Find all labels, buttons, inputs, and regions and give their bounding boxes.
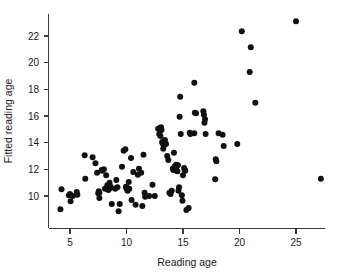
axes [49,14,326,229]
x-tick-label: 15 [177,237,189,248]
data-point [179,192,185,198]
data-point [293,18,299,24]
data-point [92,160,98,166]
data-point [178,131,184,137]
data-point [234,141,240,147]
data-point [252,100,258,106]
data-point [82,152,88,158]
data-point [96,190,102,196]
data-point [220,132,226,138]
data-point [116,208,122,214]
x-tick-label: 25 [290,237,302,248]
data-point [212,176,218,182]
y-axis-title: Fitted reading age [2,79,14,164]
x-axis-ticks: 510152025 [67,229,302,248]
data-point [191,80,197,86]
data-point [74,192,80,198]
y-axis-ticks: 10121416182022 [28,31,49,202]
y-tick-label: 16 [28,111,40,122]
scatter-plot-figure: 510152025 10121416182022 Reading age Fit… [0,0,341,275]
data-point [191,130,197,136]
data-point [101,166,107,172]
y-tick-label: 22 [28,31,40,42]
y-tick-label: 10 [28,191,40,202]
data-point [149,182,155,188]
data-point [203,131,209,137]
y-tick-label: 12 [28,164,40,175]
x-tick-label: 5 [67,237,73,248]
data-point [318,176,324,182]
data-point [140,152,146,158]
data-point [213,158,219,164]
data-point [117,201,123,207]
x-tick-label: 10 [121,237,133,248]
data-point [239,28,245,34]
data-point [221,143,227,149]
data-point [126,186,132,192]
data-points-group [57,18,323,214]
data-point [57,206,63,212]
y-tick-label: 18 [28,84,40,95]
data-point [139,203,145,209]
data-point [138,170,144,176]
data-point [174,168,180,174]
data-point [163,141,169,147]
data-point [159,127,165,133]
data-point [177,94,183,100]
data-point [126,179,132,185]
data-point [114,184,120,190]
data-point [157,133,163,139]
plot-canvas: 510152025 10121416182022 Reading age Fit… [0,0,341,275]
data-point [202,116,208,122]
data-point [182,168,188,174]
y-tick-label: 14 [28,137,40,148]
data-point [128,155,134,161]
data-point [179,198,185,204]
data-point [247,69,253,75]
data-point [82,176,88,182]
data-point [169,188,175,194]
data-point [59,186,65,192]
data-point [113,177,119,183]
data-point [68,198,74,204]
data-point [96,195,102,201]
data-point [133,202,139,208]
data-point [129,197,135,203]
x-tick-label: 20 [234,237,246,248]
data-point [171,150,177,156]
data-point [146,193,152,199]
data-point [186,205,192,211]
data-point [90,154,96,160]
data-point [152,193,158,199]
data-point [175,162,181,168]
data-point [165,157,171,163]
x-axis-title: Reading age [157,256,217,268]
data-point [176,184,182,190]
data-point [193,110,199,116]
y-tick-label: 20 [28,57,40,68]
data-point [119,164,125,170]
data-point [177,114,183,120]
data-point [103,172,109,178]
data-point [248,44,254,50]
data-point [109,201,115,207]
data-point [122,146,128,152]
